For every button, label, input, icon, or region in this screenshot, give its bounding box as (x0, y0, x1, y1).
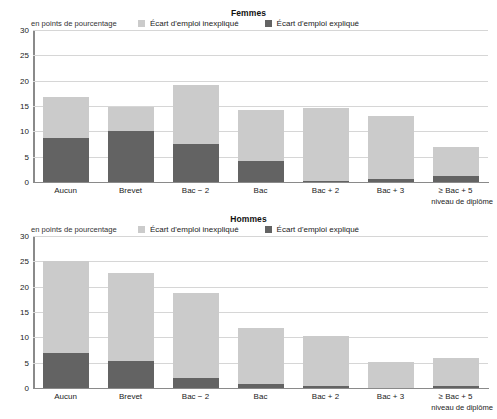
gridline (33, 287, 488, 288)
plot-area-femmes: 051015202530 (33, 30, 488, 182)
x-axis-tick-label: Aucun (54, 392, 77, 401)
bar-segment-unexplained (433, 358, 479, 386)
y-unit-label-hommes: en points de pourcentage (31, 225, 117, 234)
x-axis-tick-label: Bac + 3 (377, 392, 404, 401)
y-axis-tick-label: 25 (20, 257, 29, 266)
x-axis-line-femmes (33, 182, 489, 183)
bar-bac+2 (303, 336, 349, 388)
bar-bac+5 (433, 358, 479, 388)
bar-segment-unexplained (238, 328, 284, 385)
legend-label-explained: Écart d'emploi expliqué (277, 225, 359, 234)
y-axis-tick-label: 15 (20, 102, 29, 111)
bar-segment-explained (43, 353, 89, 388)
bar-segment-unexplained (173, 85, 219, 143)
bar-brevet (108, 107, 154, 182)
plot-area-hommes: 051015202530 (33, 236, 488, 388)
bar-bac+5 (433, 147, 479, 182)
y-axis-tick-label: 5 (25, 152, 29, 161)
y-axis-tick-label: 20 (20, 282, 29, 291)
gridline (33, 236, 488, 237)
x-axis-tick-label: Brevet (119, 186, 142, 195)
legend-swatch-explained-icon (265, 20, 272, 27)
legend-label-unexplained: Écart d'emploi inexpliqué (150, 19, 239, 28)
bar-segment-explained (108, 361, 154, 388)
y-axis-tick-label: 0 (25, 178, 29, 187)
legend-item-explained: Écart d'emploi expliqué (265, 19, 359, 28)
chart-panel-femmes: Femmes en points de pourcentage Écart d'… (0, 8, 497, 213)
x-axis-tick-label: Bac (254, 392, 268, 401)
bar-segment-unexplained (43, 261, 89, 352)
gridline (33, 261, 488, 262)
x-axis-line-hommes (33, 388, 489, 389)
bar-segment-unexplained (303, 108, 349, 181)
chart-title-femmes: Femmes (0, 8, 497, 18)
bar-segment-explained (173, 144, 219, 183)
legend-swatch-unexplained-icon (138, 226, 145, 233)
chart-title-hommes: Hommes (0, 214, 497, 224)
bar-segment-unexplained (108, 273, 154, 361)
legend-label-unexplained: Écart d'emploi inexpliqué (150, 225, 239, 234)
bar-segment-unexplained (238, 110, 284, 161)
x-axis-tick-label: Bac (254, 186, 268, 195)
x-axis-tick-label: Bac − 2 (182, 392, 209, 401)
x-axis-tick-label: Brevet (119, 392, 142, 401)
x-axis-tick-label: Aucun (54, 186, 77, 195)
bar-segment-explained (238, 161, 284, 182)
bar-bac+3 (368, 116, 414, 182)
y-axis-tick-label: 25 (20, 51, 29, 60)
y-axis-tick-label: 30 (20, 26, 29, 35)
gridline (33, 55, 488, 56)
bar-bac2 (173, 85, 219, 182)
bar-segment-unexplained (368, 362, 414, 388)
bar-bac+3 (368, 362, 414, 388)
legend-item-unexplained: Écart d'emploi inexpliqué (138, 225, 239, 234)
bar-segment-explained (368, 179, 414, 182)
legend-label-explained: Écart d'emploi expliqué (277, 19, 359, 28)
x-axis-tick-label: ≥ Bac + 5 (439, 186, 473, 195)
y-axis-tick-label: 0 (25, 384, 29, 393)
bar-bac+2 (303, 108, 349, 182)
bar-segment-unexplained (303, 336, 349, 386)
bar-segment-explained (238, 384, 284, 388)
y-axis-tick-label: 20 (20, 76, 29, 85)
y-axis-tick-label: 30 (20, 232, 29, 241)
chart-panel-hommes: Hommes en points de pourcentage Écart d'… (0, 214, 497, 419)
bar-aucun (43, 261, 89, 388)
bar-brevet (108, 273, 154, 388)
bar-segment-explained (108, 131, 154, 182)
gridline (33, 81, 488, 82)
bar-segment-unexplained (433, 147, 479, 176)
bar-aucun (43, 97, 89, 182)
gridline (33, 106, 488, 107)
x-axis-tick-label: ≥ Bac + 5 (439, 392, 473, 401)
y-axis-tick-label: 10 (20, 333, 29, 342)
y-axis-tick-label: 10 (20, 127, 29, 136)
bar-bac (238, 328, 284, 388)
legend-item-unexplained: Écart d'emploi inexpliqué (138, 19, 239, 28)
x-axis-tick-label: Bac + 3 (377, 186, 404, 195)
gridline (33, 30, 488, 31)
x-axis-caption-femmes: niveau de diplôme (431, 197, 493, 206)
legend-item-explained: Écart d'emploi expliqué (265, 225, 359, 234)
bar-segment-explained (303, 386, 349, 388)
x-axis-caption-hommes: niveau de diplôme (431, 403, 493, 412)
y-axis-tick-label: 5 (25, 358, 29, 367)
bar-segment-unexplained (108, 107, 154, 131)
x-axis-tick-label: Bac − 2 (182, 186, 209, 195)
bar-segment-unexplained (368, 116, 414, 179)
bar-segment-unexplained (43, 97, 89, 138)
bar-segment-explained (303, 181, 349, 182)
y-unit-label-femmes: en points de pourcentage (31, 19, 117, 28)
gridline (33, 312, 488, 313)
x-axis-tick-label: Bac + 2 (312, 392, 339, 401)
bar-segment-explained (433, 386, 479, 388)
bar-bac (238, 110, 284, 182)
bar-segment-unexplained (173, 293, 219, 378)
bar-segment-explained (433, 176, 479, 182)
bar-segment-explained (173, 378, 219, 388)
legend-swatch-unexplained-icon (138, 20, 145, 27)
bar-bac2 (173, 293, 219, 388)
legend-swatch-explained-icon (265, 226, 272, 233)
bar-segment-explained (43, 138, 89, 182)
x-axis-tick-label: Bac + 2 (312, 186, 339, 195)
